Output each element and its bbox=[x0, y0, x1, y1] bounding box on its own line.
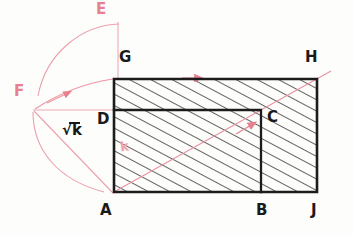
point-label-C: C bbox=[267, 110, 278, 125]
geometry-figure bbox=[0, 0, 353, 235]
point-label-F: F bbox=[14, 84, 24, 99]
point-label-B: B bbox=[256, 203, 267, 218]
point-label-A: A bbox=[100, 203, 112, 218]
arc-F-to-G bbox=[35, 79, 113, 109]
arc-E-to-F-upper bbox=[38, 24, 119, 96]
sqrt-radical-sign: √ bbox=[62, 121, 72, 139]
arrow-on-arc-FG bbox=[47, 93, 68, 103]
sqrt-overbar bbox=[69, 122, 80, 124]
diagram-canvas: E F G H D C A B J √k k bbox=[0, 0, 353, 235]
point-label-E: E bbox=[96, 2, 106, 17]
sqrt-radicand: k bbox=[72, 121, 82, 139]
annotation-sqrt-k: √k bbox=[62, 122, 82, 138]
point-label-H: H bbox=[305, 50, 318, 65]
annotation-k: k bbox=[119, 139, 129, 153]
point-label-G: G bbox=[119, 50, 131, 65]
point-label-J: J bbox=[311, 203, 317, 218]
point-label-D: D bbox=[97, 112, 109, 127]
